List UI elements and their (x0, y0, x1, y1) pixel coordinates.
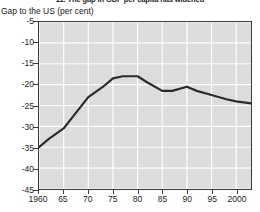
chart-title: 11. The gap in GDP per capita has widene… (0, 0, 260, 4)
x-tick-mark (237, 190, 238, 194)
x-tick-label: 2000 (228, 194, 247, 204)
x-tick-label: 85 (158, 194, 167, 204)
x-tick-mark (138, 190, 139, 194)
plot-area (38, 21, 252, 190)
x-tick-mark (162, 190, 163, 194)
x-tick-label: 65 (58, 194, 67, 204)
x-tick-mark (38, 190, 39, 194)
x-tick-label: 80 (133, 194, 142, 204)
x-tick-mark (187, 190, 188, 194)
x-tick-mark (63, 190, 64, 194)
x-tick-label: 75 (108, 194, 117, 204)
x-tick-label: 70 (83, 194, 92, 204)
chart-figure: 11. The gap in GDP per capita has widene… (0, 0, 260, 212)
x-tick-mark (88, 190, 89, 194)
x-tick-label: 95 (207, 194, 216, 204)
x-tick-label: 1960 (29, 194, 48, 204)
gridlines (39, 22, 251, 189)
chart-canvas (39, 22, 251, 189)
x-tick-label: 90 (183, 194, 192, 204)
data-series-line (39, 76, 251, 147)
y-axis-ticks: -5-10-15-20-25-30-35-40-45 (0, 0, 38, 212)
x-tick-mark (212, 190, 213, 194)
x-tick-mark (113, 190, 114, 194)
